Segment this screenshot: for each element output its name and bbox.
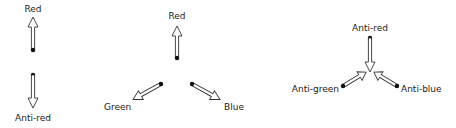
label-anti-red: Anti-red: [15, 113, 51, 123]
anti-green-dot: [341, 84, 345, 88]
panel-red-anti-red: Red Anti-red: [15, 4, 51, 123]
color-charge-diagram: Red Anti-red Red Green Blue Anti-red: [0, 0, 456, 128]
red-dot: [175, 56, 179, 60]
panel-three-anti-colors: Anti-red Anti-green Anti-blue: [292, 23, 442, 94]
quark-dot: [31, 48, 35, 52]
label-red: Red: [168, 11, 185, 21]
label-anti-red: Anti-red: [352, 23, 388, 33]
green-dot: [159, 82, 163, 86]
arrow-green: [131, 80, 164, 104]
blue-dot: [190, 82, 194, 86]
anti-blue-dot: [395, 84, 399, 88]
arrow-red-up: [28, 17, 38, 50]
panel-three-colors: Red Green Blue: [104, 11, 244, 112]
label-green: Green: [104, 102, 131, 112]
label-anti-blue: Anti-blue: [401, 84, 442, 94]
arrow-anti-red-down: [28, 75, 38, 108]
label-blue: Blue: [224, 102, 244, 112]
arrow-anti-red: [365, 38, 375, 72]
label-red: Red: [24, 4, 41, 14]
arrow-blue: [190, 80, 223, 104]
label-anti-green: Anti-green: [292, 84, 339, 94]
arrow-red-up: [172, 26, 182, 58]
